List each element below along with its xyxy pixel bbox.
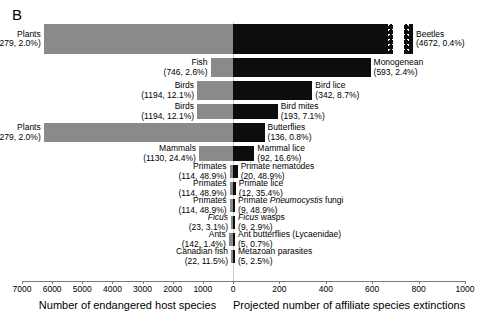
x-tick-label: 1000 xyxy=(445,284,480,294)
host-label: Birds(1194, 12.1%) xyxy=(0,81,194,100)
bar-row: Birds(1194, 12.1%)Bird lice(342, 8.7%) xyxy=(0,81,480,100)
host-label: Plants(6279, 2.0%) xyxy=(0,30,41,49)
bar-row: Fish(746, 2.6%)Monogenean(593, 2.4%) xyxy=(0,58,480,77)
x-axis-title-right: Projected number of affiliate species ex… xyxy=(233,299,465,312)
host-value: (6279, 2.0%) xyxy=(0,133,41,143)
affiliate-bar xyxy=(233,250,235,263)
affiliate-value: (136, 0.8%) xyxy=(268,133,312,143)
bar-row: Birds(1194, 12.1%)Bird mites(193, 7.1%) xyxy=(0,104,480,119)
host-label: Birds(1194, 12.1%) xyxy=(0,102,194,121)
host-value: (746, 2.6%) xyxy=(8,68,208,78)
affiliate-value: (342, 8.7%) xyxy=(315,91,359,101)
affiliate-bar xyxy=(233,233,235,246)
bar-row: Plants(6279, 2.0%)Beetles(4672, 0.4%) xyxy=(0,24,480,54)
host-bar xyxy=(197,81,233,100)
bar-row: Primates(114, 48.9%)Primate lice(12, 35.… xyxy=(0,182,480,195)
bar-row: Ants(142, 1.4%)Ant butterflies (Lycaenid… xyxy=(0,233,480,246)
host-bar xyxy=(44,123,233,142)
affiliate-label: Butterflies(136, 0.8%) xyxy=(268,123,312,142)
x-tick-label: 800 xyxy=(399,284,439,294)
bar-row: Primates(114, 48.9%)Primate nematodes(20… xyxy=(0,165,480,178)
bar-row: Plants(6279, 2.0%)Butterflies(136, 0.8%) xyxy=(0,123,480,142)
axis-break-marker xyxy=(388,24,394,54)
affiliate-label: Monogenean(593, 2.4%) xyxy=(374,58,424,77)
affiliate-value: (4672, 0.4%) xyxy=(416,39,465,49)
x-tick-label: 200 xyxy=(259,284,299,294)
affiliate-value: (5, 2.5%) xyxy=(238,257,312,267)
affiliate-bar xyxy=(233,199,235,212)
host-label: Plants(6279, 2.0%) xyxy=(0,123,41,142)
affiliate-bar xyxy=(233,182,236,195)
host-label: Canadian fish(22, 11.5%) xyxy=(28,247,228,266)
host-bar xyxy=(199,146,233,161)
affiliate-label: Beetles(4672, 0.4%) xyxy=(416,30,465,49)
affiliate-bar xyxy=(233,165,238,178)
host-bar xyxy=(197,104,233,119)
bar-row: Canadian fish(22, 11.5%)Metazoan parasit… xyxy=(0,250,480,263)
affiliate-bar xyxy=(233,146,254,161)
affiliate-label: Metazoan parasites(5, 2.5%) xyxy=(238,247,312,266)
affiliate-label: Bird mites(193, 7.1%) xyxy=(281,102,325,121)
affiliate-bar xyxy=(233,24,393,54)
affiliate-bar xyxy=(233,123,265,142)
host-value: (1194, 12.1%) xyxy=(0,91,194,101)
affiliate-bar xyxy=(233,81,312,100)
host-value: (1194, 12.1%) xyxy=(0,112,194,122)
bar-row: Mammals(1130, 24.4%)Mammal lice(92, 16.6… xyxy=(0,146,480,161)
host-bar xyxy=(44,24,233,54)
host-label: Fish(746, 2.6%) xyxy=(8,58,208,77)
x-tick-label: 0 xyxy=(213,284,253,294)
affiliate-bar xyxy=(233,216,235,229)
bar-row: Primates(114, 48.9%)Primate Pneumocystis… xyxy=(0,199,480,212)
affiliate-value: (193, 7.1%) xyxy=(281,112,325,122)
affiliate-label: Bird lice(342, 8.7%) xyxy=(315,81,359,100)
axis-break-marker xyxy=(403,24,409,54)
x-tick-label: 400 xyxy=(306,284,346,294)
host-bar xyxy=(211,58,233,77)
host-value: (22, 11.5%) xyxy=(28,257,228,267)
host-label: Mammals(1130, 24.4%) xyxy=(0,144,196,163)
affiliate-value: (593, 2.4%) xyxy=(374,68,424,78)
x-axis-line xyxy=(22,281,465,282)
x-tick-label: 600 xyxy=(352,284,392,294)
bar-row: Ficus(23, 3.1%)Ficus wasps(9, 2.9%) xyxy=(0,216,480,229)
affiliate-bar xyxy=(233,104,278,119)
x-axis-title-left: Number of endangered host species xyxy=(22,299,233,312)
diverging-bar-chart: Plants(6279, 2.0%)Beetles(4672, 0.4%)Fis… xyxy=(0,0,480,322)
host-value: (6279, 2.0%) xyxy=(0,39,41,49)
affiliate-bar xyxy=(233,58,371,77)
